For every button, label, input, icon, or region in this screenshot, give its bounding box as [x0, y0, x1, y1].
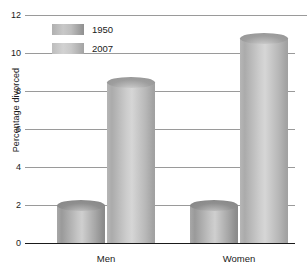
legend-swatch-2007 — [52, 43, 84, 54]
bar-body — [107, 82, 155, 244]
bar-chart: Percentage divorced 024681012 MenWomen 1… — [0, 0, 307, 270]
legend-label-2007: 2007 — [92, 43, 113, 54]
legend-swatch-1950 — [52, 24, 84, 35]
x-axis-line: 0 — [25, 243, 295, 244]
y-tick-label: 8 — [16, 87, 21, 96]
x-axis-label-women: Women — [190, 253, 288, 264]
y-tick-label: 6 — [16, 125, 21, 134]
plot-area: 024681012 — [25, 0, 307, 250]
bar-men-2007 — [107, 82, 155, 244]
y-tick-label: 2 — [16, 201, 21, 210]
x-axis-label-men: Men — [57, 253, 155, 264]
y-tick-label: 4 — [16, 163, 21, 172]
bar-top-cap — [57, 200, 105, 211]
bar-women-1950 — [190, 205, 238, 243]
bar-top-cap — [107, 77, 155, 88]
y-tick-label: 10 — [11, 49, 21, 58]
gridline: 12 — [25, 15, 307, 16]
bar-top-cap — [240, 33, 288, 44]
bar-top-cap — [190, 200, 238, 211]
bar-men-1950 — [57, 205, 105, 243]
y-tick-label: 12 — [11, 11, 21, 20]
bar-women-2007 — [240, 38, 288, 243]
bar-body — [240, 38, 288, 243]
y-tick-label: 0 — [16, 239, 21, 248]
legend-label-1950: 1950 — [92, 24, 113, 35]
y-axis-title: Percentage divorced — [11, 40, 21, 180]
